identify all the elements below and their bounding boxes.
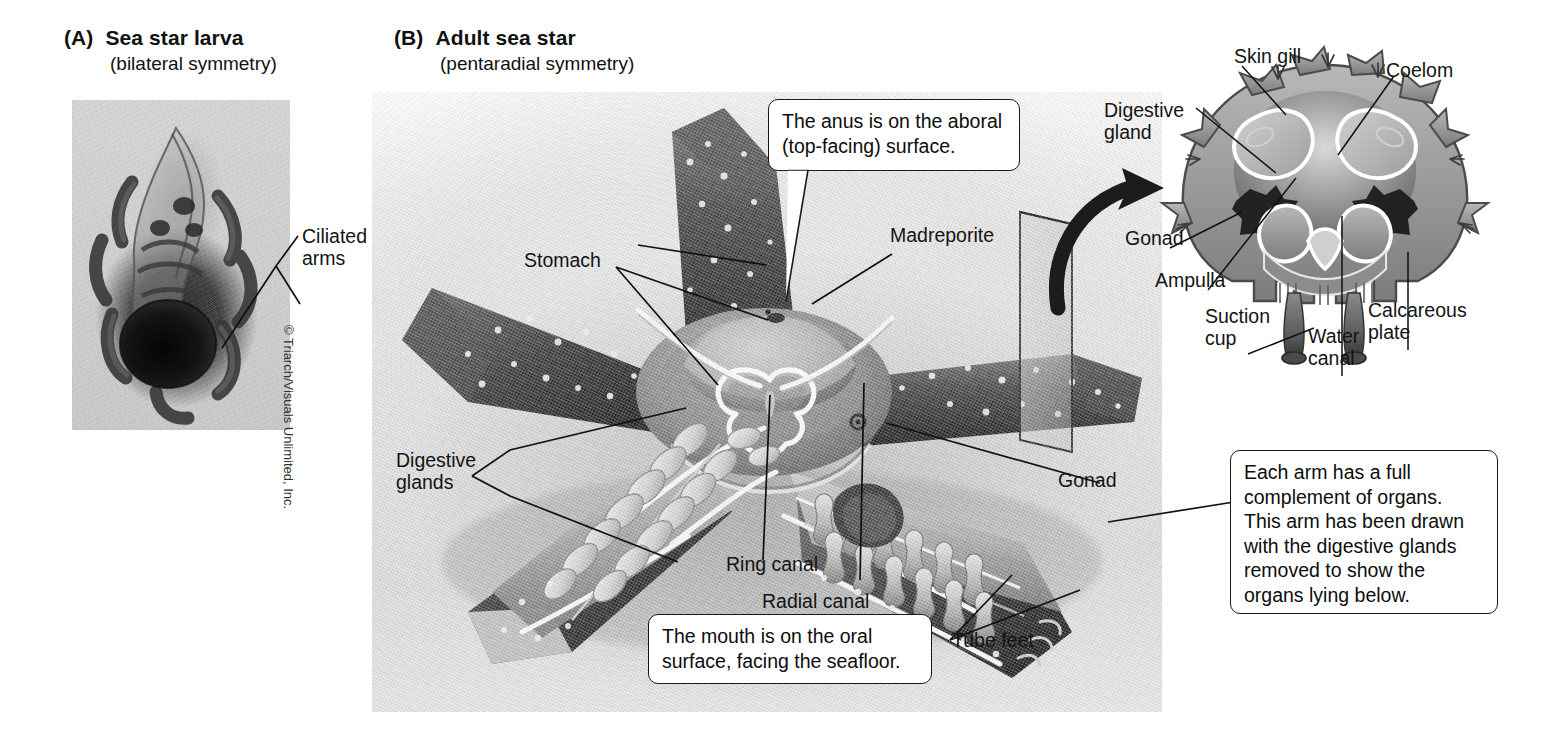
label-calcareous-plate: Calcareous plate	[1368, 300, 1467, 343]
label-stomach: Stomach	[524, 250, 601, 272]
panel-a-title: Sea star larva	[105, 26, 243, 50]
callout-arm-line1: Each arm has a full	[1244, 460, 1484, 485]
label-suction-cup-line2: cup	[1205, 328, 1270, 350]
label-skin-gill: Skin gill	[1234, 46, 1301, 68]
callout-anus-line1: The anus is on the aboral	[782, 109, 1006, 134]
label-water-canal-line1: Water	[1308, 326, 1359, 348]
callout-arm-line4: with the digestive glands	[1244, 534, 1484, 559]
callout-mouth-line2: surface, facing the seafloor.	[662, 649, 918, 674]
label-radial-canal: Radial canal	[762, 591, 869, 613]
panel-b-subtitle: (pentaradial symmetry)	[440, 53, 634, 75]
label-digestive-glands: Digestive glands	[396, 450, 476, 493]
label-ampulla: Ampulla	[1155, 270, 1225, 292]
label-suction-cup-line1: Suction	[1205, 306, 1270, 328]
label-digestive-gland-line2: gland	[1104, 122, 1184, 144]
callout-mouth: The mouth is on the oral surface, facing…	[648, 614, 932, 684]
callout-anus-line2: (top-facing) surface.	[782, 134, 1006, 159]
label-ring-canal: Ring canal	[726, 554, 818, 576]
label-coelom: Coelom	[1386, 60, 1453, 82]
label-water-canal-line2: canal	[1308, 348, 1359, 370]
panel-a-heading: (A) Sea star larva (bilateral symmetry)	[64, 26, 277, 75]
callout-anus: The anus is on the aboral (top-facing) s…	[768, 99, 1020, 171]
label-gonad-main: Gonad	[1058, 470, 1117, 492]
label-calcareous-plate-line1: Calcareous	[1368, 300, 1467, 322]
callout-arm-organs: Each arm has a full complement of organs…	[1230, 450, 1498, 614]
leader-ciliated-arms	[222, 230, 314, 380]
figure-root: (A) Sea star larva (bilateral symmetry)	[0, 0, 1553, 736]
label-water-canal: Water canal	[1308, 326, 1359, 369]
callout-mouth-line1: The mouth is on the oral	[662, 624, 918, 649]
panel-b-heading: (B) Adult sea star (pentaradial symmetry…	[394, 26, 634, 75]
leader-arm-callout	[1108, 478, 1238, 528]
panel-a-subtitle: (bilateral symmetry)	[110, 53, 277, 75]
label-digestive-gland: Digestive gland	[1104, 100, 1184, 143]
panel-a-letter: (A)	[64, 26, 93, 50]
label-tube-feet: Tube feet	[952, 630, 1034, 652]
callout-arm-line5: removed to show the	[1244, 558, 1484, 583]
callout-arm-line6: organs lying below.	[1244, 583, 1484, 608]
label-digestive-glands-line1: Digestive	[396, 450, 476, 472]
callout-arm-line2: complement of organs.	[1244, 485, 1484, 510]
panel-b-title: Adult sea star	[435, 26, 575, 50]
label-madreporite: Madreporite	[890, 225, 994, 247]
label-digestive-gland-line1: Digestive	[1104, 100, 1184, 122]
label-suction-cup: Suction cup	[1205, 306, 1270, 349]
label-digestive-glands-line2: glands	[396, 472, 476, 494]
callout-anus-pointer	[772, 168, 842, 308]
label-calcareous-plate-line2: plate	[1368, 322, 1467, 344]
panel-b-letter: (B)	[394, 26, 423, 50]
callout-arm-line3: This arm has been drawn	[1244, 509, 1484, 534]
leader-digestive-glands	[472, 420, 712, 580]
